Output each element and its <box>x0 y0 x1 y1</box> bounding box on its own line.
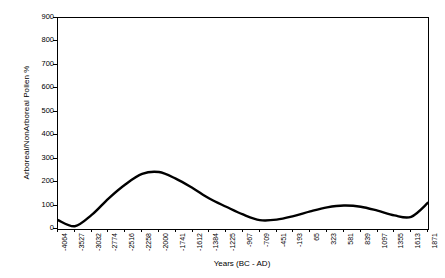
x-tick-label: -1225 <box>229 233 237 259</box>
x-tick-label: -1384 <box>212 233 220 259</box>
x-tick-label: 1355 <box>397 233 405 259</box>
x-tick-label: -3032 <box>95 233 103 259</box>
x-tick-label: -3527 <box>78 233 86 259</box>
x-tick-mark <box>225 229 226 232</box>
x-tick-label: -2258 <box>145 233 153 259</box>
y-tick-label: 300 <box>26 154 54 162</box>
y-tick-label: 900 <box>26 13 54 21</box>
x-tick-label: 1097 <box>381 233 389 259</box>
x-tick-label: -709 <box>263 233 271 259</box>
x-tick-label: -193 <box>296 233 304 259</box>
x-tick-mark <box>427 229 428 232</box>
y-tick-label: 200 <box>26 177 54 185</box>
x-tick-label: -2000 <box>162 233 170 259</box>
x-tick-mark <box>259 229 260 232</box>
x-tick-label: -4064 <box>61 233 69 259</box>
pollen-data-line <box>58 172 428 227</box>
x-tick-mark <box>91 229 92 232</box>
x-tick-label: 1613 <box>414 233 422 259</box>
x-tick-mark <box>309 229 310 232</box>
y-tick-label: 0 <box>26 224 54 232</box>
x-tick-label: 323 <box>330 233 338 259</box>
y-tick-mark <box>53 158 57 159</box>
y-tick-mark <box>53 17 57 18</box>
x-tick-mark <box>107 229 108 232</box>
data-line-svg <box>58 18 428 229</box>
x-tick-mark <box>57 229 58 232</box>
x-tick-mark <box>343 229 344 232</box>
y-tick-mark <box>53 181 57 182</box>
x-tick-mark <box>175 229 176 232</box>
y-tick-mark <box>53 64 57 65</box>
x-tick-mark <box>276 229 277 232</box>
y-tick-mark <box>53 40 57 41</box>
x-tick-label: 65 <box>313 233 321 259</box>
x-tick-label: -967 <box>246 233 254 259</box>
y-tick-mark <box>53 111 57 112</box>
y-tick-label: 700 <box>26 60 54 68</box>
x-tick-mark <box>74 229 75 232</box>
x-tick-label: -2774 <box>111 233 119 259</box>
x-tick-mark <box>360 229 361 232</box>
x-tick-label: 1871 <box>431 233 439 259</box>
x-tick-mark <box>242 229 243 232</box>
y-tick-label: 400 <box>26 130 54 138</box>
y-tick-label: 100 <box>26 201 54 209</box>
x-tick-mark <box>208 229 209 232</box>
plot-area <box>57 17 429 230</box>
x-tick-mark <box>292 229 293 232</box>
x-tick-mark <box>410 229 411 232</box>
x-tick-label: 581 <box>347 233 355 259</box>
y-tick-mark <box>53 134 57 135</box>
x-tick-mark <box>124 229 125 232</box>
x-tick-label: -1612 <box>196 233 204 259</box>
x-tick-mark <box>192 229 193 232</box>
y-tick-label: 600 <box>26 83 54 91</box>
pollen-line-chart: Arboreal/NonArboreal Pollen % 0100200300… <box>0 0 445 278</box>
y-tick-label: 500 <box>26 107 54 115</box>
x-tick-label: 839 <box>364 233 372 259</box>
y-tick-label: 800 <box>26 36 54 44</box>
x-tick-mark <box>141 229 142 232</box>
x-axis-title: Years (BC - AD) <box>57 259 427 269</box>
x-tick-label: -1741 <box>179 233 187 259</box>
y-axis-tick-labels: 0100200300400500600700800900 <box>26 17 54 228</box>
x-tick-label: -451 <box>280 233 288 259</box>
x-tick-mark <box>377 229 378 232</box>
x-tick-label: -2516 <box>128 233 136 259</box>
x-tick-mark <box>393 229 394 232</box>
x-tick-mark <box>158 229 159 232</box>
x-tick-mark <box>326 229 327 232</box>
y-tick-mark <box>53 87 57 88</box>
y-tick-mark <box>53 205 57 206</box>
